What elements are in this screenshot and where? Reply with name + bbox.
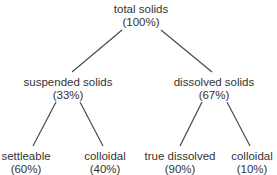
node-true-dissolved: true dissolved (90%) — [145, 150, 216, 175]
node-suspended-solids: suspended solids (33%) — [24, 76, 113, 102]
node-percent: (100%) — [114, 16, 168, 29]
node-label: settleable — [1, 150, 50, 163]
node-label: true dissolved — [145, 150, 216, 163]
node-percent: (60%) — [1, 163, 50, 175]
node-total-solids: total solids (100%) — [114, 3, 168, 29]
node-percent: (40%) — [84, 163, 126, 175]
node-dissolved-solids: dissolved solids (67%) — [174, 76, 255, 102]
node-settleable: settleable (60%) — [1, 150, 50, 175]
edge-dissolved-to-true-dissolved — [180, 102, 202, 146]
edge-dissolved-to-colloidal — [227, 102, 250, 146]
edge-total-to-suspended — [72, 30, 122, 72]
edge-suspended-to-colloidal — [80, 102, 103, 146]
node-percent: (90%) — [145, 163, 216, 175]
node-dissolved-colloidal: colloidal (10%) — [231, 150, 273, 175]
node-label: total solids — [114, 3, 168, 16]
edge-suspended-to-settleable — [33, 102, 56, 146]
node-suspended-colloidal: colloidal (40%) — [84, 150, 126, 175]
node-label: colloidal — [84, 150, 126, 163]
node-label: suspended solids — [24, 76, 113, 89]
node-label: dissolved solids — [174, 76, 255, 89]
node-percent: (67%) — [174, 89, 255, 102]
node-percent: (10%) — [231, 163, 273, 175]
edge-total-to-dissolved — [161, 30, 212, 72]
node-label: colloidal — [231, 150, 273, 163]
node-percent: (33%) — [24, 89, 113, 102]
solids-classification-tree: total solids (100%) suspended solids (33… — [0, 0, 277, 175]
